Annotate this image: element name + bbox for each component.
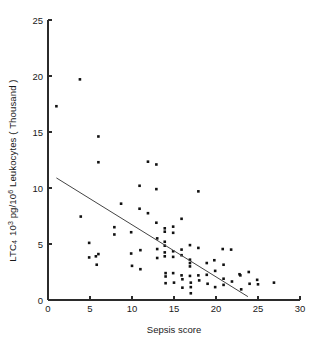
data-point [190, 292, 193, 295]
data-point [197, 190, 200, 193]
y-tick-label: 15 [32, 127, 43, 138]
data-point [97, 161, 100, 164]
data-point [173, 281, 176, 284]
data-point [230, 248, 233, 251]
data-point [130, 252, 133, 255]
data-point [88, 242, 91, 245]
regression-line [56, 178, 248, 297]
data-point [197, 247, 200, 250]
data-point [247, 271, 250, 274]
data-point [248, 282, 251, 285]
data-point [113, 226, 116, 229]
data-point [55, 105, 58, 108]
data-point [79, 215, 82, 218]
data-point [155, 221, 158, 224]
data-point [214, 286, 217, 289]
data-point [164, 282, 167, 285]
data-point [180, 248, 183, 251]
data-point [97, 135, 100, 138]
data-point [181, 286, 184, 289]
data-point [156, 257, 159, 260]
data-point [231, 280, 234, 283]
data-point [197, 274, 200, 277]
data-point [147, 212, 150, 215]
data-point [172, 256, 175, 259]
data-point [172, 225, 175, 228]
data-point [198, 279, 201, 282]
data-point [222, 284, 225, 287]
y-tick-label: 20 [32, 71, 43, 82]
data-point [88, 256, 91, 259]
y-tick-label: 0 [38, 295, 43, 306]
data-point [206, 282, 209, 285]
data-point [79, 78, 82, 81]
data-point [256, 279, 259, 282]
data-point [189, 265, 192, 268]
data-point [172, 272, 175, 275]
data-point [139, 249, 142, 252]
data-point [156, 248, 159, 251]
data-point [180, 218, 183, 221]
data-point [205, 274, 208, 277]
data-point [240, 288, 243, 291]
data-point [95, 263, 98, 266]
data-point [213, 259, 216, 262]
data-point [138, 207, 141, 210]
y-tick-label: 5 [38, 239, 43, 250]
x-axis-ticks: 051015202530 [45, 296, 305, 314]
x-axis-label: Sepsis score [147, 324, 201, 335]
data-point [164, 272, 167, 275]
data-point [131, 265, 134, 268]
data-point [222, 277, 225, 280]
x-tick-label: 15 [169, 303, 180, 314]
data-point [163, 230, 166, 233]
data-point [113, 233, 116, 236]
data-point [189, 275, 192, 278]
data-point [138, 184, 141, 187]
data-point [164, 275, 167, 278]
data-point [180, 274, 183, 277]
data-point [155, 188, 158, 191]
x-tick-label: 5 [87, 303, 92, 314]
y-axis-ticks: 0510152025 [32, 15, 52, 306]
data-point [273, 281, 276, 284]
plot-area: 051015202530 0510152025 Sepsis score [0, 0, 319, 341]
data-point [205, 262, 208, 265]
y-tick-label: 10 [32, 183, 43, 194]
y-tick-label: 25 [32, 15, 43, 26]
scatter-chart: 051015202530 0510152025 Sepsis score LTC… [0, 0, 319, 341]
data-point [190, 286, 193, 289]
data-point [222, 263, 225, 266]
data-point [95, 255, 98, 258]
data-point [239, 274, 242, 277]
x-tick-label: 20 [211, 303, 222, 314]
data-point [130, 231, 133, 234]
data-point [189, 244, 192, 247]
data-point [163, 227, 166, 230]
data-point [97, 253, 100, 256]
data-point [257, 283, 260, 286]
data-point [163, 251, 166, 254]
data-point [147, 160, 150, 163]
data-point [120, 202, 123, 205]
x-tick-label: 0 [45, 303, 50, 314]
x-tick-label: 30 [295, 303, 306, 314]
data-point [189, 262, 192, 265]
data-point [139, 268, 142, 271]
data-points [55, 78, 275, 295]
data-point [163, 255, 166, 258]
data-point [181, 278, 184, 281]
data-point [155, 163, 158, 166]
data-point [172, 232, 175, 235]
data-point [163, 240, 166, 243]
x-tick-label: 10 [127, 303, 138, 314]
data-point [221, 248, 224, 251]
data-point [214, 270, 217, 273]
data-point [190, 281, 193, 284]
x-tick-label: 25 [253, 303, 264, 314]
